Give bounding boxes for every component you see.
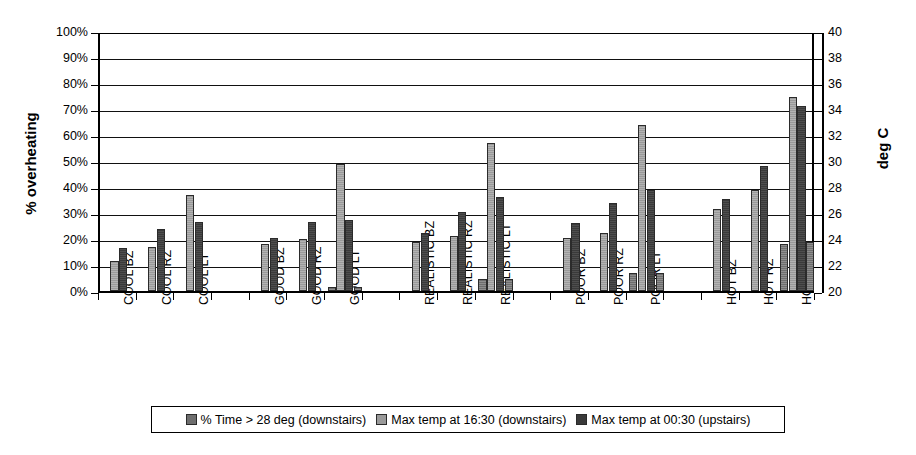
bar [563,238,571,291]
y-tick-mark [91,267,98,268]
gridline [100,85,812,86]
bar [421,233,429,292]
bar [600,233,608,292]
y-tick-mark [814,33,822,34]
y-tick-label-left: 100% [42,26,88,39]
y-tick-mark [91,293,98,294]
y-tick-label-left: 0% [42,286,88,299]
gridline [100,215,812,216]
bar [354,287,362,291]
y-tick-mark [814,137,822,138]
y-axis-title-right: deg C [874,79,891,219]
y-tick-label-left: 60% [42,130,88,143]
legend-label: Max temp at 00:30 (upstairs) [591,413,750,427]
gridline [100,111,812,112]
bar [458,212,466,291]
x-tick-mark [663,293,664,300]
legend-label: % Time > 28 deg (downstairs) [201,413,367,427]
bar [336,164,344,291]
y-tick-mark [814,59,822,60]
bar [299,239,307,291]
x-tick-mark [249,293,250,300]
gridline [100,33,812,34]
legend-swatch-icon [186,414,197,425]
bar [797,106,805,291]
x-tick-mark [399,293,400,300]
bar [505,279,513,291]
x-tick-mark [588,293,589,300]
chart-legend: % Time > 28 deg (downstairs)Max temp at … [151,406,785,433]
y-tick-label-right: 38 [828,52,868,65]
bar [722,199,730,291]
x-tick-mark [98,293,99,300]
right-axis-line [822,33,824,293]
bar [760,166,768,291]
bar [308,222,316,291]
bar [638,125,646,291]
y-tick-label-right: 32 [828,130,868,143]
y-tick-label-right: 24 [828,234,868,247]
y-tick-label-right: 22 [828,260,868,273]
x-tick-mark [814,293,815,300]
legend-entry[interactable]: % Time > 28 deg (downstairs) [181,413,372,427]
y-tick-mark [814,267,822,268]
bar [261,244,269,291]
bar [345,220,353,292]
y-axis-title-left: % overheating [22,74,39,254]
y-tick-label-left: 30% [42,208,88,221]
y-tick-label-left: 20% [42,234,88,247]
y-tick-mark [814,215,822,216]
y-tick-mark [91,241,98,242]
x-tick-mark [701,293,702,300]
y-tick-mark [814,189,822,190]
bar [148,247,156,291]
bar [656,273,664,291]
y-tick-label-right: 30 [828,156,868,169]
y-tick-label-right: 34 [828,104,868,117]
x-tick-mark [437,293,438,300]
x-tick-mark [550,293,551,300]
y-tick-mark [91,137,98,138]
bar [713,209,721,291]
y-tick-mark [91,59,98,60]
y-tick-label-left: 10% [42,260,88,273]
bar [157,229,165,291]
gridline [100,163,812,164]
legend-entry[interactable]: Max temp at 00:30 (upstairs) [571,413,755,427]
bar [478,279,486,291]
y-tick-label-right: 40 [828,26,868,39]
y-tick-mark [91,33,98,34]
x-tick-mark [324,293,325,300]
gridline [100,189,812,190]
y-tick-mark [91,85,98,86]
legend-label: Max temp at 16:30 (downstairs) [391,413,566,427]
y-tick-label-left: 40% [42,182,88,195]
legend-entry[interactable]: Max temp at 16:30 (downstairs) [371,413,571,427]
bar [119,248,127,291]
bar [496,197,504,291]
gridline [100,137,812,138]
gridline [100,59,812,60]
bar [328,287,336,291]
bar [186,195,194,291]
y-tick-label-right: 28 [828,182,868,195]
y-tick-mark [814,293,822,294]
chart-container: % overheating deg C 0%10%20%30%40%50%60%… [0,0,916,455]
y-tick-label-left: 50% [42,156,88,169]
y-tick-mark [814,85,822,86]
bar [110,261,118,291]
bar [647,190,655,291]
bar [450,236,458,291]
bar [806,242,814,291]
legend-swatch-icon [376,414,387,425]
bar [270,238,278,291]
bar [571,223,579,291]
bar [412,242,420,291]
x-tick-mark [211,293,212,300]
bar [195,222,203,291]
y-tick-label-left: 70% [42,104,88,117]
y-tick-label-left: 80% [42,78,88,91]
y-tick-label-right: 26 [828,208,868,221]
bar [487,143,495,291]
legend-swatch-icon [576,414,587,425]
